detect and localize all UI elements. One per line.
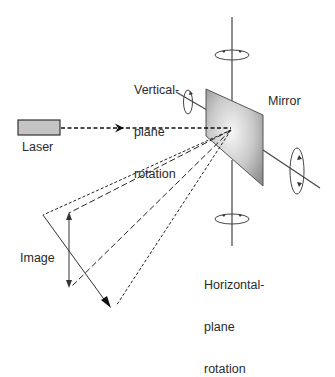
mirror-label: Mirror [268, 94, 301, 108]
vertical-rotation-line-3: rotation [134, 167, 179, 181]
horizontal-rotation-line-3: rotation [204, 362, 264, 376]
horizontal-rotation-label: Horizontal- plane rotation [204, 250, 264, 377]
laser-source [18, 120, 60, 135]
horizontal-rotation-line-1: Horizontal- [204, 278, 264, 292]
right-rotation-arrow-icon [290, 148, 304, 194]
image-label: Image [20, 251, 55, 265]
horizontal-rotation-line-2: plane [204, 320, 264, 334]
vertical-rotation-line-2: plane [134, 125, 179, 139]
mirror [206, 89, 263, 186]
left-rotation-arrow-icon [184, 90, 194, 114]
image-vertical-arrow-icon [66, 212, 72, 288]
vertical-rotation-line-1: Vertical- [134, 83, 179, 97]
vertical-rotation-label: Vertical- plane rotation [134, 55, 179, 195]
laser-label: Laser [22, 140, 53, 154]
